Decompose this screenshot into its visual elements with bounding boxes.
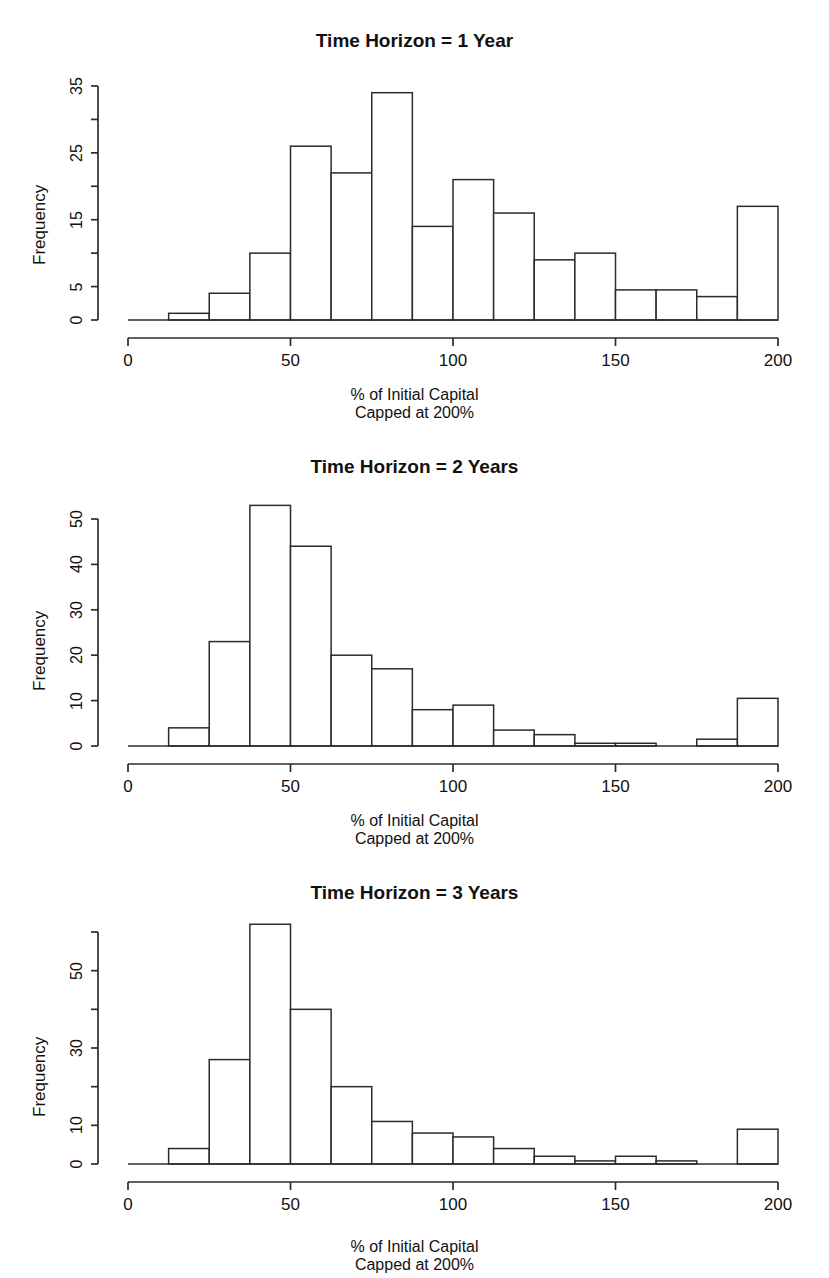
x-tick-label: 0	[103, 1195, 153, 1215]
x-tick-label: 0	[103, 777, 153, 797]
x-tick-label: 100	[428, 351, 478, 371]
x-tick-label: 50	[266, 777, 316, 797]
histogram-bar	[534, 260, 575, 320]
histogram-bar	[616, 1156, 657, 1164]
y-tick-label: 20	[68, 640, 86, 670]
y-tick-label: 30	[68, 1033, 86, 1063]
x-tick-label: 150	[591, 777, 641, 797]
bars-group-3	[128, 924, 778, 1164]
y-tick-label: 50	[68, 956, 86, 986]
y-tick-label: 15	[68, 205, 86, 235]
histogram-bar	[291, 546, 332, 746]
histogram-bar	[737, 206, 778, 320]
y-axis-label-1: Frequency	[30, 185, 50, 265]
histogram-bar	[494, 213, 535, 320]
histogram-bar	[331, 655, 372, 746]
x-axis-label-line2-2: Capped at 200%	[0, 830, 829, 848]
x-axis-2	[128, 764, 778, 772]
histogram-bar	[412, 710, 453, 746]
y-axis-label-3: Frequency	[30, 1037, 50, 1117]
x-axis-3	[128, 1182, 778, 1190]
x-axis-label-line1-3: % of Initial Capital	[0, 1237, 829, 1257]
x-tick-label: 200	[753, 351, 803, 371]
histogram-bar	[250, 253, 291, 320]
y-tick-label: 40	[68, 549, 86, 579]
y-tick-label: 30	[68, 595, 86, 625]
x-tick-label: 150	[591, 1195, 641, 1215]
figure-page: Time Horizon = 1 Year Frequency % of Ini…	[0, 0, 829, 1278]
histogram-bar	[737, 1129, 778, 1164]
histogram-bar	[291, 146, 332, 320]
histogram-bar	[494, 730, 535, 746]
histogram-bar	[534, 735, 575, 746]
histogram-bar	[697, 739, 738, 746]
histogram-bar	[656, 290, 697, 320]
x-tick-label: 100	[428, 777, 478, 797]
x-tick-label: 50	[266, 1195, 316, 1215]
x-axis-label-line2-3: Capped at 200%	[0, 1256, 829, 1274]
y-tick-label: 0	[68, 731, 86, 761]
x-tick-label: 200	[753, 1195, 803, 1215]
histogram-bar	[291, 1009, 332, 1164]
y-axis-3	[91, 932, 98, 1164]
histogram-bar	[372, 1121, 413, 1164]
histogram-bar	[453, 180, 494, 320]
x-tick-label: 100	[428, 1195, 478, 1215]
histogram-bar	[372, 669, 413, 746]
y-axis-1	[91, 86, 98, 320]
x-tick-label: 200	[753, 777, 803, 797]
y-tick-label: 35	[68, 71, 86, 101]
histogram-bar	[169, 313, 210, 320]
y-tick-label: 50	[68, 504, 86, 534]
histogram-bar	[331, 173, 372, 320]
bars-group-1	[128, 93, 778, 320]
x-axis-label-line1-1: % of Initial Capital	[0, 385, 829, 405]
y-axis-2	[91, 519, 98, 746]
histogram-bar	[250, 924, 291, 1164]
histogram-bar	[412, 1133, 453, 1164]
histogram-bar	[412, 226, 453, 320]
y-tick-label: 10	[68, 1110, 86, 1140]
histogram-bar	[169, 728, 210, 746]
histogram-bar	[453, 1137, 494, 1164]
y-tick-label: 25	[68, 138, 86, 168]
histogram-bar	[697, 297, 738, 320]
histogram-bar	[209, 293, 250, 320]
y-tick-label: 0	[68, 305, 86, 335]
histogram-bar	[331, 1087, 372, 1164]
histogram-bar	[209, 1060, 250, 1164]
x-tick-label: 0	[103, 351, 153, 371]
histogram-bar	[169, 1149, 210, 1164]
histogram-bar	[575, 253, 616, 320]
histogram-bar	[250, 505, 291, 746]
histogram-bar	[453, 705, 494, 746]
x-axis-1	[128, 338, 778, 346]
x-axis-label-line1-2: % of Initial Capital	[0, 811, 829, 831]
histogram-bar	[494, 1149, 535, 1164]
y-axis-label-2: Frequency	[30, 611, 50, 691]
x-axis-label-line2-1: Capped at 200%	[0, 404, 829, 422]
histogram-bar	[372, 93, 413, 320]
x-tick-label: 50	[266, 351, 316, 371]
bars-group-2	[128, 505, 778, 746]
y-tick-label: 10	[68, 686, 86, 716]
y-tick-label: 5	[68, 272, 86, 302]
y-tick-label: 0	[68, 1149, 86, 1179]
histogram-bar	[737, 698, 778, 746]
x-tick-label: 150	[591, 351, 641, 371]
histogram-bar	[616, 290, 657, 320]
histogram-bar	[534, 1156, 575, 1164]
histogram-bar	[209, 642, 250, 746]
